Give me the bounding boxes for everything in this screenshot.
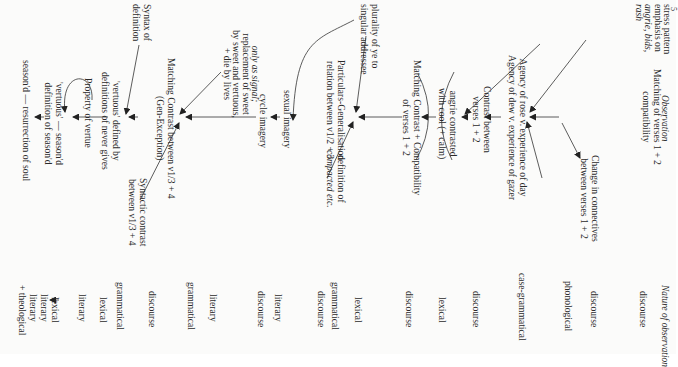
nature-item: discourse <box>256 291 267 327</box>
node-agency: Agency of rose v. experience of day Agen… <box>507 55 528 200</box>
nature-item: discourse <box>147 291 158 327</box>
node-particulars-generalisation: Particulars-Generalisation relation betw… <box>325 60 346 160</box>
node-vertuous-defined: 'vertuous' defined by definitions of nev… <box>100 72 121 170</box>
nature-item: literary <box>208 294 219 322</box>
nature-item: discourse <box>638 291 649 327</box>
nature-item: case-grammatical <box>517 273 528 341</box>
node-plurality: plurality of ye to singular addressee <box>359 4 380 75</box>
node-stress-pattern: stress pattern emphasis on angrie, bids,… <box>634 4 672 54</box>
nature-item: lexical <box>353 297 364 323</box>
node-only-as-signal: only as signal; replacement of sweet by … <box>222 30 260 118</box>
nature-item: grammatical <box>186 282 197 330</box>
nature-item: discourse <box>316 291 327 327</box>
nature-item: + theological <box>17 285 28 335</box>
node-syntactic-contrast: Syntactic contrast between v1/3 + 4 <box>127 178 148 246</box>
node-sexual-imagery: sexual imagery <box>282 90 293 148</box>
node-change-in-connectives: Change in connectives between verses 1 +… <box>579 155 600 242</box>
nature-item: phonological <box>563 281 574 331</box>
node-syntax-of-definition: Syntax of definition <box>131 4 152 41</box>
nature-item: lexical <box>437 297 448 323</box>
node-vertuous-season: 'vertuous' — season'd definition of seas… <box>43 82 64 165</box>
node-matching-verses-compatibility: Matching of verses 1 + 2 compatibility <box>641 69 662 165</box>
node-property-of-vertue: Property of vertue <box>83 78 94 148</box>
nature-item: lexical <box>50 297 61 323</box>
node-season-resurrection: season'd — resurrection of soul <box>21 60 32 181</box>
nature-item: discourse <box>404 291 415 327</box>
nature-item: lexical <box>98 297 109 323</box>
nature-item: grammatical <box>330 282 341 330</box>
node-matching-contrast-compatibility: Matching Contrast + Compatibility of ver… <box>401 60 422 195</box>
header-nature-of-observation: Nature of observation <box>660 285 671 367</box>
nature-item: discourse <box>471 291 482 327</box>
node-angrie-contrasted: angrie contrasted with cool (+ calm) <box>437 88 458 159</box>
node-contrast-verses: Contrast between verses 1 + 2 <box>471 86 492 153</box>
nature-item: literary <box>28 294 39 322</box>
node-matching-contrast-gen-exception: Matching Contrast between v1/3 + 4 (Gen-… <box>155 58 176 199</box>
nature-item: literary <box>39 294 50 322</box>
nature-item: grammatical <box>115 282 126 330</box>
nature-item: literary <box>77 294 88 322</box>
nature-item: literary <box>273 294 284 322</box>
nature-item: discourse <box>589 291 600 327</box>
